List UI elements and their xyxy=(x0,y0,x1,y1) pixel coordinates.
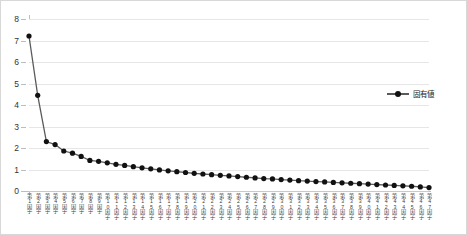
x-axis-tick-label: 第1因子 xyxy=(26,193,31,213)
x-axis-tick-label: 第3因子 xyxy=(44,193,49,213)
y-axis-tick xyxy=(21,62,26,63)
x-axis-tick-label: 第4因子 xyxy=(52,193,57,213)
x-axis-tick-label: 第41因子 xyxy=(374,193,379,219)
x-axis-labels: 第1因子第2因子第3因子第4因子第5因子第6因子第7因子第8因子第9因子第10因… xyxy=(29,193,429,235)
x-axis-tick-label: 第18因子 xyxy=(174,193,179,219)
x-axis-tick-label: 第28因子 xyxy=(261,193,266,219)
data-point xyxy=(218,173,223,178)
x-axis-tick-label: 第39因子 xyxy=(357,193,362,219)
data-point xyxy=(305,179,310,184)
data-point xyxy=(209,172,214,177)
x-axis-tick-label: 第13因子 xyxy=(131,193,136,219)
data-point xyxy=(252,175,257,180)
x-axis-tick-label: 第32因子 xyxy=(296,193,301,219)
y-axis-tick-label: 6 xyxy=(14,58,19,67)
data-point xyxy=(35,93,40,98)
data-point xyxy=(296,178,301,183)
series-markers xyxy=(26,33,431,190)
data-point xyxy=(357,181,362,186)
x-axis-tick-label: 第24因子 xyxy=(226,193,231,219)
x-axis-tick-label: 第16因子 xyxy=(157,193,162,219)
data-point xyxy=(235,174,240,179)
y-axis-tick-label: 5 xyxy=(14,79,19,88)
x-axis-tick-label: 第12因子 xyxy=(122,193,127,219)
y-axis-tick xyxy=(21,170,26,171)
x-axis-tick-label: 第5因子 xyxy=(61,193,66,213)
x-axis-tick-label: 第8因子 xyxy=(87,193,92,213)
data-point xyxy=(79,154,84,159)
data-point xyxy=(418,184,423,189)
x-axis-tick-label: 第10因子 xyxy=(105,193,110,219)
y-axis-tick xyxy=(21,84,26,85)
x-axis-tick-label: 第43因子 xyxy=(391,193,396,219)
y-axis-tick-label: 4 xyxy=(14,101,19,110)
y-axis-tick-label: 0 xyxy=(14,187,19,196)
x-axis-tick-label: 第44因子 xyxy=(400,193,405,219)
data-point xyxy=(287,177,292,182)
data-point xyxy=(192,171,197,176)
data-point xyxy=(139,165,144,170)
y-axis-tick xyxy=(21,127,26,128)
x-axis-tick-label: 第27因子 xyxy=(252,193,257,219)
x-axis-tick-label: 第7因子 xyxy=(78,193,83,213)
x-axis-tick-label: 第25因子 xyxy=(235,193,240,219)
data-point xyxy=(244,175,249,180)
data-point xyxy=(70,151,75,156)
x-axis-tick-label: 第34因子 xyxy=(313,193,318,219)
data-point xyxy=(348,181,353,186)
x-axis-tick-label: 第38因子 xyxy=(348,193,353,219)
data-point xyxy=(148,166,153,171)
data-point xyxy=(200,171,205,176)
data-point xyxy=(261,176,266,181)
y-axis-tick-label: 8 xyxy=(14,15,19,24)
x-axis-tick-label: 第14因子 xyxy=(139,193,144,219)
data-point xyxy=(44,139,49,144)
y-axis-tick xyxy=(21,105,26,106)
x-axis-tick-label: 第2因子 xyxy=(35,193,40,213)
x-axis-tick-label: 第26因子 xyxy=(244,193,249,219)
data-point xyxy=(96,159,101,164)
data-point xyxy=(409,184,414,189)
x-axis-tick-label: 第36因子 xyxy=(331,193,336,219)
data-point xyxy=(279,177,284,182)
y-axis-tick xyxy=(21,191,26,192)
x-axis-tick-label: 第22因子 xyxy=(209,193,214,219)
series-line xyxy=(29,36,429,188)
data-point xyxy=(226,173,231,178)
legend-label-eigenvalue: 固有値 xyxy=(413,88,434,99)
data-point xyxy=(166,168,171,173)
x-axis-tick-label: 第20因子 xyxy=(191,193,196,219)
x-axis-tick-label: 第40因子 xyxy=(365,193,370,219)
series-eigenvalue xyxy=(29,19,429,191)
x-axis-tick-label: 第17因子 xyxy=(165,193,170,219)
data-point xyxy=(392,183,397,188)
data-point xyxy=(157,167,162,172)
data-point xyxy=(122,163,127,168)
x-axis-tick-label: 第19因子 xyxy=(183,193,188,219)
data-point xyxy=(105,160,110,165)
x-axis-tick-label: 第37因子 xyxy=(339,193,344,219)
data-point xyxy=(374,182,379,187)
data-point xyxy=(26,33,31,38)
x-axis-tick-label: 第42因子 xyxy=(383,193,388,219)
x-axis-tick-label: 第47因子 xyxy=(426,193,431,219)
x-axis-tick-label: 第45因子 xyxy=(409,193,414,219)
y-axis-tick-label: 3 xyxy=(14,122,19,131)
gridline xyxy=(29,191,429,192)
data-point xyxy=(113,162,118,167)
data-point xyxy=(52,142,57,147)
x-axis-tick-label: 第30因子 xyxy=(278,193,283,219)
y-axis-tick xyxy=(21,19,26,20)
y-axis-labels: 012345678 xyxy=(1,1,29,235)
y-axis-tick-label: 7 xyxy=(14,36,19,45)
x-axis-tick-label: 第46因子 xyxy=(418,193,423,219)
x-axis-tick-label: 第9因子 xyxy=(96,193,101,213)
x-axis-tick-label: 第33因子 xyxy=(305,193,310,219)
x-axis-tick-label: 第29因子 xyxy=(270,193,275,219)
y-axis-tick xyxy=(21,41,26,42)
x-axis-tick-label: 第31因子 xyxy=(287,193,292,219)
data-point xyxy=(400,183,405,188)
x-axis-tick-label: 第11因子 xyxy=(113,193,118,219)
data-point xyxy=(183,170,188,175)
x-axis-tick-label: 第21因子 xyxy=(200,193,205,219)
